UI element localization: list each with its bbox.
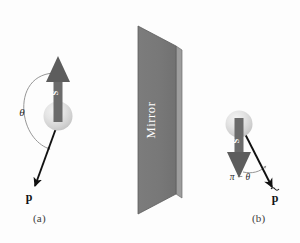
panel-a-group: θ p S [19,56,72,204]
mirror-group: Mirror [138,26,182,214]
spin-arrow-head [46,56,70,82]
angle-label-theta: θ [19,106,25,118]
spin-arrow-shaft [54,78,63,122]
spin-label-s-mirror: S [231,138,241,143]
spin-arrow-shaft-mirror [235,118,244,156]
figure-canvas: Mirror θ p S π − θ [0,0,300,243]
mirror-label: Mirror [144,101,158,138]
mirror-thickness-edge [176,46,182,198]
panel-b-group: π − θ p S [226,111,280,206]
momentum-label-p-tilde-group: p [271,188,279,205]
panel-a-caption: (a) [33,212,46,224]
momentum-label-p-tilde: p [272,191,279,205]
spin-label-s: S [50,90,60,95]
panel-b-caption: (b) [252,212,265,224]
momentum-label-p: p [26,190,33,204]
tilde-accent-icon [271,188,279,190]
diagram-svg: Mirror θ p S π − θ [0,0,300,243]
